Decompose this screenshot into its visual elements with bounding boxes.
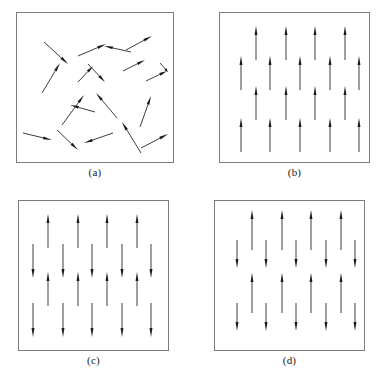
arrow-d-r0-c2-up: [310, 210, 313, 250]
arrow-d-r1-c1-down: [265, 240, 268, 268]
arrow-d-r2-c0-up: [251, 273, 254, 313]
arrow-d-r1-c2-down: [295, 240, 298, 268]
arrow-d-r3-c0-down: [236, 303, 239, 331]
arrow-d-r3-c1-down: [265, 303, 268, 331]
arrow-d-r3-c4-down: [354, 303, 357, 331]
panel-d-arrows: [0, 0, 385, 382]
arrow-d-r3-c3-down: [325, 303, 328, 331]
arrow-d-r1-c4-down: [354, 240, 357, 268]
arrow-d-r0-c0-up: [251, 210, 254, 250]
arrow-d-r1-c0-down: [236, 240, 239, 268]
arrow-d-r2-c2-up: [310, 273, 313, 313]
panel-d-caption: (d): [214, 354, 365, 366]
arrow-d-r2-c3-up: [340, 273, 343, 313]
arrow-d-r2-c1-up: [281, 273, 284, 313]
arrow-d-r1-c3-down: [325, 240, 328, 268]
arrow-d-r3-c2-down: [295, 303, 298, 331]
panel-d: (d): [0, 0, 385, 382]
arrow-d-r0-c3-up: [340, 210, 343, 250]
magnetic-ordering-figure: (a) (b) (c) (d): [0, 0, 385, 382]
arrow-d-r0-c1-up: [281, 210, 284, 250]
